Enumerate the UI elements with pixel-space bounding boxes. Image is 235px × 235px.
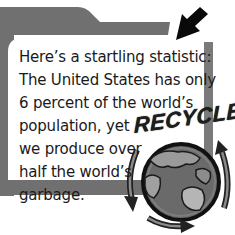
callout-line: we produce over [19,138,169,161]
callout-line: The United States has only [19,69,169,92]
arrow-down-left-icon [176,7,208,40]
folder-tab-shape [0,7,170,35]
recycle-callout-graphic: Here’s a startling statistic: The United… [0,0,235,235]
callout-line: Here’s a startling statistic: [19,46,169,69]
callout-line: garbage. [19,184,169,207]
callout-line: half the world’s [19,161,169,184]
